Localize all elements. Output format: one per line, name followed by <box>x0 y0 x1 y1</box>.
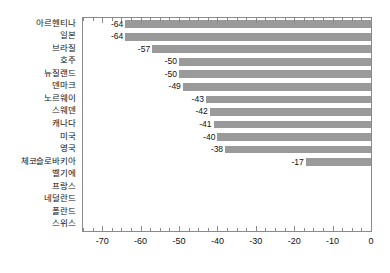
category-label: 스웨덴 <box>0 106 76 115</box>
bar-value-label: -43 <box>192 95 204 104</box>
bar-row: -40 <box>83 133 371 141</box>
category-label: 호주 <box>0 56 76 65</box>
axis-tick-minor <box>227 18 228 21</box>
bar-row: -38 <box>83 146 371 154</box>
bar <box>179 58 371 66</box>
axis-tick-major <box>371 226 372 231</box>
bar <box>210 108 371 116</box>
axis-tick-minor <box>323 18 324 21</box>
bar <box>206 96 371 104</box>
axis-tick-major <box>333 18 334 23</box>
category-label: 벨기에 <box>0 169 76 178</box>
axis-tick-minor <box>237 228 238 231</box>
axis-tick-major <box>256 18 257 23</box>
axis-tick-minor <box>83 18 84 21</box>
bar <box>306 158 371 166</box>
axis-tick-minor <box>361 228 362 231</box>
axis-tick-major <box>179 18 180 23</box>
axis-tick-minor <box>112 228 113 231</box>
bar-value-label: -57 <box>138 45 150 54</box>
category-label: 캐나다 <box>0 119 76 128</box>
bar <box>214 121 371 129</box>
bar <box>152 45 371 53</box>
bar <box>225 146 371 154</box>
bar-row: -64 <box>83 33 371 41</box>
axis-tick-minor <box>237 18 238 21</box>
axis-tick-major <box>102 18 103 23</box>
axis-tick-minor <box>121 228 122 231</box>
x-tick-label: -70 <box>96 236 109 247</box>
axis-tick-minor <box>285 18 286 21</box>
axis-tick-minor <box>265 18 266 21</box>
bar-row: -50 <box>83 58 371 66</box>
bar <box>125 33 371 41</box>
x-tick-label: -10 <box>326 236 339 247</box>
axis-tick-minor <box>304 228 305 231</box>
bar-row: -57 <box>83 45 371 53</box>
axis-tick-major <box>333 226 334 231</box>
x-tick-label: 0 <box>368 236 373 247</box>
axis-tick-minor <box>246 228 247 231</box>
axis-tick-major <box>217 226 218 231</box>
axis-tick-minor <box>352 228 353 231</box>
bar-value-label: -17 <box>291 158 303 167</box>
bar-value-label: -64 <box>111 20 123 29</box>
category-axis: 아르헨티나일본브라질호주뉴질랜드덴마크노르웨이스웨덴캐나다미국영국체코슬로바키아… <box>0 17 80 232</box>
axis-tick-minor <box>342 228 343 231</box>
bar-value-label: -50 <box>165 57 177 66</box>
bar-row: -50 <box>83 70 371 78</box>
axis-tick-minor <box>131 18 132 21</box>
category-label: 프랑스 <box>0 182 76 191</box>
x-tick-label: -40 <box>211 236 224 247</box>
axis-tick-minor <box>160 18 161 21</box>
axis-tick-minor <box>150 228 151 231</box>
category-label: 스위스 <box>0 219 76 228</box>
bar-value-label: -49 <box>169 82 181 91</box>
bar-row <box>83 183 371 191</box>
axis-tick-minor <box>323 228 324 231</box>
bar-row <box>83 196 371 204</box>
axis-tick-minor <box>150 18 151 21</box>
axis-tick-minor <box>304 18 305 21</box>
bar-value-label: -50 <box>165 70 177 79</box>
axis-tick-major <box>217 18 218 23</box>
axis-tick-minor <box>112 18 113 21</box>
category-label: 폴란드 <box>0 207 76 216</box>
axis-tick-minor <box>342 18 343 21</box>
axis-tick-major <box>179 226 180 231</box>
plot-inner: -64-64-57-50-50-49-43-42-41-40-38-17 <box>83 18 371 231</box>
bar-chart: 아르헨티나일본브라질호주뉴질랜드덴마크노르웨이스웨덴캐나다미국영국체코슬로바키아… <box>0 0 390 273</box>
bar-value-label: -64 <box>111 32 123 41</box>
bar-value-label: -38 <box>211 145 223 154</box>
x-tick-label: -30 <box>249 236 262 247</box>
axis-tick-major <box>294 18 295 23</box>
bar-row: -42 <box>83 108 371 116</box>
axis-tick-minor <box>160 228 161 231</box>
axis-tick-minor <box>169 228 170 231</box>
axis-tick-major <box>141 226 142 231</box>
axis-tick-minor <box>121 18 122 21</box>
x-tick-label: -20 <box>288 236 301 247</box>
category-label: 체코슬로바키아 <box>0 157 76 166</box>
axis-tick-minor <box>285 228 286 231</box>
bar <box>125 20 371 28</box>
category-label: 네덜란드 <box>0 194 76 203</box>
category-label: 뉴질랜드 <box>0 69 76 78</box>
category-label: 노르웨이 <box>0 94 76 103</box>
axis-tick-minor <box>275 228 276 231</box>
bar-row: -17 <box>83 158 371 166</box>
bar-row: -64 <box>83 20 371 28</box>
category-label: 덴마크 <box>0 81 76 90</box>
axis-tick-minor <box>198 18 199 21</box>
x-tick-label: -50 <box>172 236 185 247</box>
bar <box>179 70 371 78</box>
axis-tick-minor <box>361 18 362 21</box>
bar <box>217 133 371 141</box>
category-label: 아르헨티나 <box>0 19 76 28</box>
axis-tick-minor <box>208 228 209 231</box>
axis-tick-minor <box>275 18 276 21</box>
axis-tick-minor <box>313 228 314 231</box>
axis-tick-minor <box>169 18 170 21</box>
axis-tick-minor <box>208 18 209 21</box>
bar-row: -49 <box>83 83 371 91</box>
